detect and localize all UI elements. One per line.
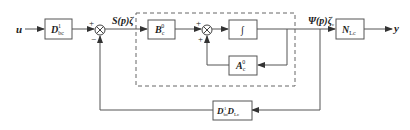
svg-text:Ac0: Ac0 — [235, 59, 246, 72]
summing-junction-1: + − — [89, 18, 105, 44]
output-label: y — [392, 22, 399, 34]
input-label: u — [16, 23, 22, 35]
sum2-plus-sign-bottom: + — [198, 34, 203, 44]
sum1-minus-sign: − — [91, 34, 96, 44]
block-diagram: u Dbc-1 + − S(p)ζ Bc0 + + ∫ — [0, 0, 410, 130]
wire-outer-feedback-in — [252, 29, 320, 110]
summing-junction-2: + + — [196, 18, 212, 44]
svg-text:Bc0: Bc0 — [154, 23, 165, 36]
b-matrix-block: Bc0 — [148, 20, 175, 39]
s-signal-label: S(p)ζ — [112, 15, 134, 27]
wire-inner-feedback-out — [207, 36, 229, 65]
wire-outer-feedback-out — [100, 36, 213, 110]
psi-signal-label: Ψ(p)ζc — [308, 15, 335, 27]
feedback-gain-block: Dbc-1DLc — [213, 101, 252, 120]
a-matrix-block: Ac0 — [229, 56, 257, 75]
wire-inner-feedback-in — [258, 29, 287, 65]
output-gain-block: NLc — [336, 19, 364, 39]
sum1-plus-sign: + — [89, 18, 94, 28]
integrator-block: ∫ — [229, 20, 257, 39]
sum2-plus-sign-top: + — [196, 18, 201, 28]
input-gain-block: Dbc-1 — [45, 19, 72, 39]
